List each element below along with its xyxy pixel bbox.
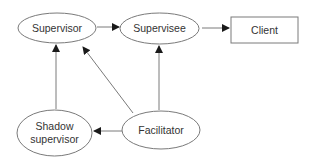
client-label: Client (231, 17, 298, 43)
edge-facilitator-to-supervisor (83, 47, 133, 113)
facilitator-label: Facilitator (122, 111, 200, 149)
supervisee-label: Supervisee (120, 13, 199, 44)
supervisor-label: Supervisor (18, 13, 96, 43)
shadow-supervisor-label: Shadow supervisor (17, 110, 92, 156)
